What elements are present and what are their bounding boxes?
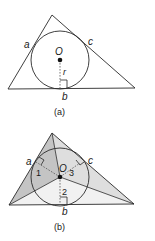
right-angle-marker-a <box>60 80 67 88</box>
center-point-b <box>58 175 63 180</box>
label-a-side-c: c <box>88 36 93 47</box>
figure-a: a c O r b (a) <box>8 15 135 117</box>
label-b-center: O <box>59 163 67 174</box>
center-point-a <box>58 58 63 63</box>
incircle-diagram: a c O r b (a) a c O 1 3 2 b (b) <box>0 0 155 241</box>
label-a-side-b: b <box>62 91 68 102</box>
label-a-side-a: a <box>24 39 30 50</box>
label-b-side-b: b <box>62 206 68 217</box>
label-a-radius: r <box>63 67 67 77</box>
label-b-side-a: a <box>26 156 32 167</box>
label-a-center: O <box>55 46 63 57</box>
triangle-a <box>8 15 135 89</box>
label-region-3: 3 <box>69 168 74 178</box>
figure-b: a c O 1 3 2 b (b) <box>9 133 134 232</box>
caption-b: (b) <box>54 222 65 232</box>
caption-a: (a) <box>54 107 65 117</box>
label-b-side-c: c <box>88 155 93 166</box>
label-region-2: 2 <box>62 187 67 197</box>
label-region-1: 1 <box>36 168 41 178</box>
